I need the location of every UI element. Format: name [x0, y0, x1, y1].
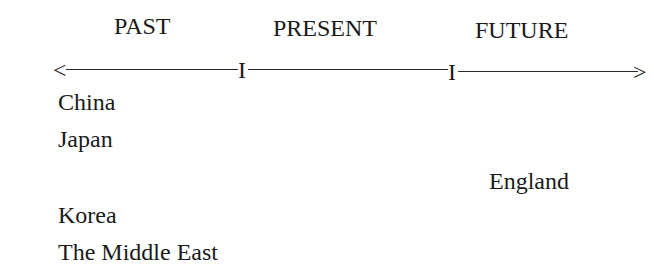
period-label-future: FUTURE — [475, 18, 568, 42]
timeline-segment-present — [248, 69, 448, 70]
tick-past-present: I — [238, 58, 246, 82]
period-label-present: PRESENT — [273, 16, 377, 40]
tick-present-future: I — [448, 60, 456, 84]
right-arrowhead-icon: > — [633, 60, 647, 84]
timeline-segment-future — [458, 71, 638, 72]
item-japan: Japan — [58, 127, 113, 151]
left-arrowhead-icon: < — [53, 58, 67, 82]
item-middle-east: The Middle East — [58, 240, 218, 264]
item-korea: Korea — [58, 203, 117, 227]
timeline-segment-past — [66, 69, 238, 70]
item-china: China — [58, 90, 115, 114]
item-england: England — [489, 169, 569, 193]
period-label-past: PAST — [114, 14, 170, 38]
